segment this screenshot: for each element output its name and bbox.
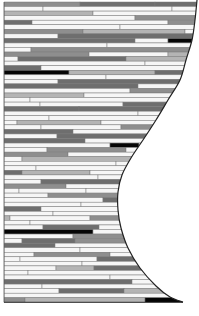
bar-segment [4,189,19,194]
bar-segment [18,57,126,62]
bar-segment [123,102,199,107]
bar-rows [4,2,199,302]
bar-segment [101,120,199,125]
bar-segment [4,16,135,21]
bar-segment [4,2,80,7]
bar-segment [4,293,176,298]
bar-segment [69,70,155,75]
bar-segment [4,125,41,130]
bar-segment [155,70,199,75]
bar-segment [106,75,199,80]
bar-segment [110,143,139,148]
bar-segment [145,61,199,66]
bar-segment [135,38,168,43]
bar-segment [90,170,199,175]
bar-segment [132,280,199,285]
bar-segment [56,266,94,271]
bar-segment [73,234,199,239]
bar-segment [66,184,199,189]
bar-segment [17,120,101,125]
bar-segment [138,111,199,116]
bar-segment [4,275,110,280]
bar-segment [4,230,93,235]
bar-segment [4,88,130,93]
bar-segment [4,75,106,80]
bar-segment [4,175,98,180]
bar-segment [4,29,83,34]
bar-segment [4,207,41,212]
bar-segment [4,70,69,75]
bar-segment [4,148,47,153]
bar-segment [4,257,20,262]
bar-segment [107,43,199,48]
bar-segment [82,261,199,266]
bar-segment [126,57,199,62]
bar-segment [4,111,138,116]
bar-segment [30,98,199,103]
bar-segment [4,157,22,162]
bar-segment [4,261,82,266]
bar-segment [90,216,199,221]
bar-segment [42,284,199,289]
bar-segment [4,25,120,30]
bar-segment [4,170,22,175]
bar-segment [47,148,126,153]
bar-segment [168,38,199,43]
bar-segment [41,207,199,212]
bar-segment [80,248,199,253]
bar-segment [93,230,199,235]
bar-segment [32,20,168,25]
bar-segment [4,79,58,84]
bar-segment [34,252,110,257]
bar-segment [98,175,199,180]
bar-segment [4,143,110,148]
bar-segment [4,107,79,112]
bar-segment [48,193,199,198]
bar-segment [75,239,199,244]
bar-segment [81,202,199,207]
bar-segment [84,93,199,98]
bar-segment [4,61,145,66]
bar-segment [139,143,199,148]
bar-segment [4,166,36,171]
bar-segment [135,16,199,21]
bar-segment [57,134,199,139]
bar-segment [4,211,53,216]
bar-segment [4,161,116,166]
bar-segment [4,220,30,225]
bar-segment [4,198,103,203]
bar-segment [110,252,199,257]
bar-segment [4,20,32,25]
bar-segment [41,125,121,130]
bar-segment [36,166,199,171]
bar-segment [4,216,10,221]
bar-segment [4,38,135,43]
bar-segment [4,252,34,257]
bar-segment [4,139,85,144]
bar-segment [58,34,199,39]
bar-segment [4,57,18,62]
bar-segment [120,25,199,30]
bar-segment [110,275,199,280]
bar-segment [80,2,155,7]
bar-segment [30,220,199,225]
bar-segment [176,293,199,298]
bar-segment [4,298,25,303]
bar-segment [19,189,86,194]
bar-segment [138,84,199,89]
bar-segment [40,102,123,107]
bar-segment [4,270,28,275]
bar-segment [73,129,199,134]
bar-segment [4,93,84,98]
bar-segment [4,98,30,103]
bar-segment [4,280,132,285]
bar-segment [43,7,172,12]
bar-segment [4,34,58,39]
bar-segment [43,225,99,230]
bar-segment [4,43,107,48]
bar-segment [97,257,199,262]
bar-segment [121,125,199,130]
bar-segment [94,266,199,271]
bar-segment [4,184,66,189]
bar-segment [53,211,199,216]
